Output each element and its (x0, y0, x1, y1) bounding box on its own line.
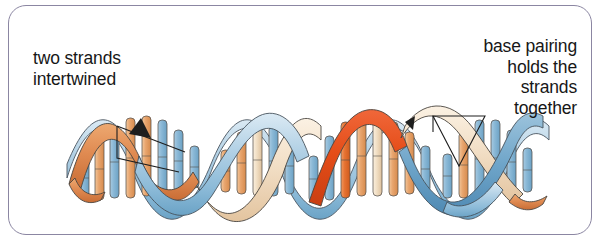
annotation-right: base pairing holds the strands together (483, 36, 577, 118)
figure-panel: two strands intertwined base pairing hol… (8, 5, 592, 235)
annotation-left: two strands intertwined (33, 48, 121, 89)
front-ribbon-seg-5 (509, 194, 547, 210)
